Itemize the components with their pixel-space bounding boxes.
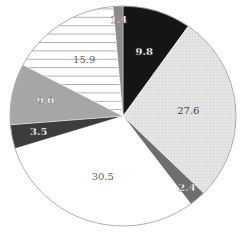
slice-label: 9.8 [135,46,152,57]
slice-label: 27.6 [177,105,199,116]
pie-chart: 9.827.62.430.53.59.015.91.4 [0,0,244,232]
slice-label: 1.4 [110,14,127,25]
slice-label: 9.0 [37,95,54,106]
pie-slices [10,6,236,226]
slice-label: 15.9 [73,54,95,65]
slice-label: 2.4 [178,182,195,193]
slice-label: 3.5 [30,126,47,137]
slice-label: 30.5 [92,171,114,182]
